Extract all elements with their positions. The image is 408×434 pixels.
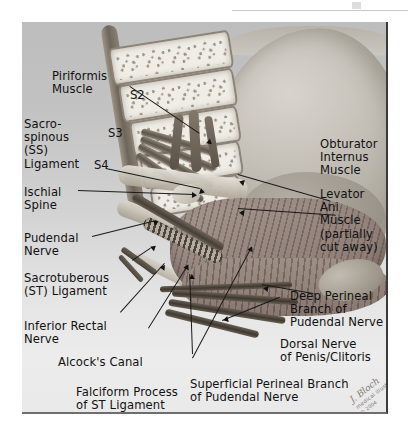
label-dorsal-nerve: Dorsal Nerve of Penis/Clitoris	[280, 338, 371, 364]
arrowhead-sacrotuberous	[150, 243, 158, 251]
label-obturator-internus-muscle: Obturator Internus Muscle	[320, 138, 378, 178]
arrowhead-levator-ani	[239, 210, 244, 216]
label-alcocks-canal: Alcock's Canal	[58, 356, 143, 369]
arrowhead-superficial-perineal	[189, 274, 195, 279]
segment-label-s3: S3	[108, 126, 123, 140]
arrowhead-deep-perineal	[263, 285, 269, 292]
leader-inferior-rectal	[120, 263, 165, 313]
segment-label-s4: S4	[94, 158, 109, 172]
label-ischial-spine: Ischial Spine	[24, 186, 61, 212]
label-sacrotuberous-ligament: Sacrotuberous (ST) Ligament	[24, 272, 109, 298]
label-levator-ani-muscle: Levator Ani Muscle (partially cut away)	[320, 188, 386, 254]
scan-top-rule	[232, 10, 408, 11]
label-inferior-rectal-nerve: Inferior Rectal Nerve	[24, 320, 107, 346]
label-deep-perineal-branch: Deep Perineal Branch of Pudendal Nerve	[290, 290, 383, 330]
illustration-panel: S2 S3 S4 Piriformis Muscle Sacro- spinou…	[22, 22, 388, 414]
label-piriformis-muscle: Piriformis Muscle	[52, 70, 107, 96]
label-falciform-process: Falciform Process of ST Ligament	[76, 386, 178, 412]
label-sacrospinous-ligament: Sacro- spinous (SS) Ligament	[24, 118, 79, 171]
arrowhead-ischial-spine	[192, 192, 197, 198]
segment-label-s2: S2	[130, 88, 145, 102]
arrowhead-dorsal-nerve	[222, 316, 228, 323]
artist-signature: J. Bloch medical illustration © 2004	[348, 362, 388, 414]
scan-top-glyph	[352, 2, 361, 9]
label-superficial-perineal-branch: Superficial Perineal Branch of Pudendal …	[190, 378, 349, 404]
label-pudendal-nerve: Pudendal Nerve	[24, 232, 78, 258]
